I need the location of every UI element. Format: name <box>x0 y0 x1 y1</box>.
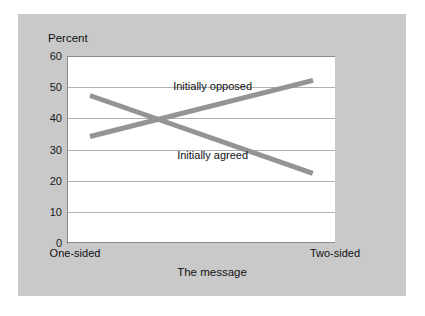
gridline-60 <box>68 56 335 57</box>
y-tick-30: 30 <box>50 144 62 155</box>
chart-figure-panel: Percent 60 50 40 30 20 10 0 Initially op… <box>18 14 406 296</box>
y-tick-50: 50 <box>50 82 62 93</box>
gridline-0-axis <box>68 242 335 243</box>
gridline-10 <box>68 212 335 213</box>
gridline-20 <box>68 181 335 182</box>
plot-area: Initially opposed Initially agreed <box>67 56 335 243</box>
series-label-initially-agreed: Initially agreed <box>177 149 248 161</box>
y-axis-tick-labels: 60 50 40 30 20 10 0 <box>18 56 62 243</box>
y-axis-title: Percent <box>48 32 88 44</box>
y-tick-10: 10 <box>50 206 62 217</box>
y-tick-40: 40 <box>50 113 62 124</box>
y-tick-60: 60 <box>50 51 62 62</box>
x-axis-title: The message <box>18 266 406 278</box>
gridline-40 <box>68 118 335 119</box>
x-category-label-two-sided: Two-sided <box>295 247 375 259</box>
series-label-initially-opposed: Initially opposed <box>173 80 252 92</box>
y-tick-20: 20 <box>50 175 62 186</box>
x-category-label-one-sided: One-sided <box>35 247 115 259</box>
